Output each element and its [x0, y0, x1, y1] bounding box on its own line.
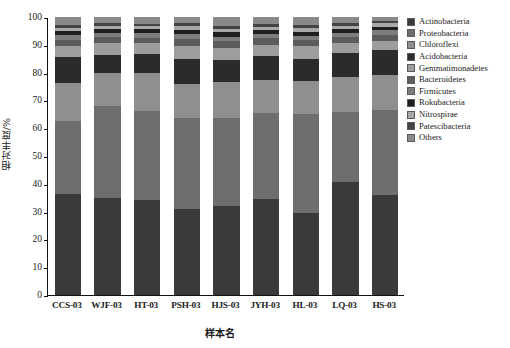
x-tick-label: JYH-03	[245, 300, 285, 310]
bar-segment	[55, 194, 81, 295]
stacked-bar-chart: 相对丰度/% 0102030405060708090100 CCS-03WJF-…	[0, 0, 510, 348]
bar-segment	[213, 41, 239, 48]
bar-segment	[332, 43, 358, 53]
legend-label: Patescibacteria	[419, 122, 471, 131]
bar-segment	[213, 118, 239, 206]
bar-wjf-03[interactable]	[94, 17, 120, 295]
bar-segment	[332, 182, 358, 295]
y-tick-label: 30	[18, 208, 42, 218]
bar-segment	[372, 110, 398, 195]
bar-ccs-03[interactable]	[55, 17, 81, 295]
legend-label: Acidobacteria	[419, 52, 467, 61]
y-tick-label: 80	[18, 69, 42, 79]
legend-item[interactable]: Others	[407, 132, 507, 144]
y-tick-label: 60	[18, 124, 42, 134]
y-tick-label: 70	[18, 96, 42, 106]
y-tick-label: 50	[18, 152, 42, 162]
legend-label: Nitrospirae	[419, 110, 458, 119]
bar-jyh-03[interactable]	[253, 17, 279, 295]
legend-item[interactable]: Gemmatimonadetes	[407, 62, 507, 74]
bar-segment	[213, 206, 239, 295]
legend-swatch-icon	[407, 29, 415, 37]
bar-segment	[174, 59, 200, 84]
bar-segment	[55, 57, 81, 83]
legend-item[interactable]: Patescibacteria	[407, 120, 507, 132]
bar-segment	[174, 209, 200, 295]
bar-segment	[253, 56, 279, 80]
legend-label: Gemmatimonadetes	[419, 64, 488, 73]
bar-segment	[332, 112, 358, 183]
legend-swatch-icon	[407, 64, 415, 72]
bar-lq-03[interactable]	[332, 17, 358, 295]
bar-segment	[372, 41, 398, 51]
bar-segment	[293, 59, 319, 81]
legend-label: Actinobacteria	[419, 17, 470, 26]
bar-segment	[293, 81, 319, 114]
bar-segment	[174, 84, 200, 118]
legend-label: Firmicutes	[419, 87, 456, 96]
legend-item[interactable]: Rokubacteria	[407, 97, 507, 109]
x-tick-label: CCS-03	[47, 300, 87, 310]
bar-segment	[55, 46, 81, 57]
bar-segment	[253, 45, 279, 56]
legend-item[interactable]: Bacteroidetes	[407, 74, 507, 86]
legend-item[interactable]: Acidobacteria	[407, 51, 507, 63]
bar-segment	[253, 80, 279, 113]
bar-segment	[372, 50, 398, 75]
bar-segment	[134, 43, 160, 54]
bar-segment	[134, 200, 160, 295]
bar-segment	[55, 121, 81, 193]
legend-label: Proteobacteria	[419, 29, 469, 38]
legend-item[interactable]: Nitrospirae	[407, 109, 507, 121]
y-tick-label: 20	[18, 235, 42, 245]
bar-segment	[253, 113, 279, 199]
bar-segment	[213, 17, 239, 26]
legend-swatch-icon	[407, 87, 415, 95]
bar-segment	[94, 55, 120, 73]
y-axis-title: 相对丰度/%	[2, 118, 18, 170]
legend-label: Bacteroidetes	[419, 75, 466, 84]
legend-item[interactable]: Firmicutes	[407, 86, 507, 98]
bar-segment	[372, 195, 398, 295]
bar-segment	[213, 82, 239, 118]
x-tick-label: HJS-03	[206, 300, 246, 310]
legend-label: Others	[419, 133, 442, 142]
bar-segment	[174, 46, 200, 59]
y-tick-label: 100	[18, 13, 42, 23]
bar-ht-03[interactable]	[134, 17, 160, 295]
bar-segment	[94, 106, 120, 198]
bar-segment	[253, 17, 279, 24]
y-tick-label: 0	[18, 291, 42, 301]
bar-segment	[332, 77, 358, 112]
bar-segment	[213, 60, 239, 82]
bar-hl-03[interactable]	[293, 17, 319, 295]
legend-item[interactable]: Chloroflexi	[407, 39, 507, 51]
legend-swatch-icon	[407, 111, 415, 119]
x-tick-label: HT-03	[126, 300, 166, 310]
plot-area: 0102030405060708090100	[47, 18, 404, 296]
bar-segment	[293, 46, 319, 59]
bar-segment	[253, 199, 279, 295]
bar-segment	[174, 39, 200, 46]
y-tick-mark	[44, 296, 49, 297]
bars-layer	[48, 18, 404, 295]
x-tick-label: WJF-03	[87, 300, 127, 310]
legend-item[interactable]: Proteobacteria	[407, 28, 507, 40]
bar-segment	[293, 17, 319, 25]
x-tick-label: LQ-03	[325, 300, 365, 310]
x-tick-label: HL-03	[285, 300, 325, 310]
legend-swatch-icon	[407, 53, 415, 61]
legend-item[interactable]: Actinobacteria	[407, 16, 507, 28]
legend-swatch-icon	[407, 99, 415, 107]
bar-psh-03[interactable]	[174, 17, 200, 295]
y-tick-label: 40	[18, 180, 42, 190]
legend-swatch-icon	[407, 76, 415, 84]
bar-segment	[134, 73, 160, 110]
bar-hjs-03[interactable]	[213, 17, 239, 295]
bar-segment	[332, 53, 358, 77]
bar-hs-03[interactable]	[372, 17, 398, 295]
bar-segment	[293, 213, 319, 295]
bar-segment	[55, 83, 81, 121]
legend: ActinobacteriaProteobacteriaChloroflexiA…	[407, 16, 507, 144]
x-tick-label: PSH-03	[166, 300, 206, 310]
